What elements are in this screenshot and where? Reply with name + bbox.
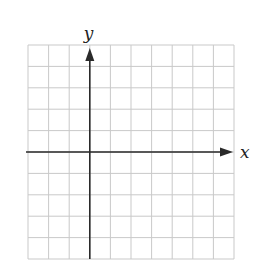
y-axis-label: y <box>83 23 94 43</box>
y-axis-arrow-icon <box>85 48 94 61</box>
x-axis-arrow-icon <box>220 148 233 157</box>
x-axis-label: x <box>240 142 250 162</box>
coordinate-plane: x y <box>0 0 261 272</box>
